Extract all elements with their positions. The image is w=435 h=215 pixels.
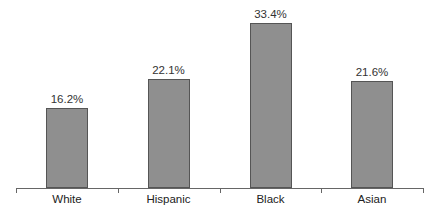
value-label: 22.1% (139, 64, 199, 76)
bar-hispanic (148, 79, 190, 188)
category-label: White (27, 193, 107, 205)
x-axis-tick (220, 188, 221, 193)
value-label: 16.2% (37, 93, 97, 105)
category-label: Asian (332, 193, 412, 205)
bar-chart: 16.2%White22.1%Hispanic33.4%Black21.6%As… (0, 0, 435, 215)
value-label: 21.6% (342, 66, 402, 78)
bar-white (46, 108, 88, 188)
bar-black (250, 23, 292, 188)
bar-asian (351, 81, 393, 188)
x-axis-tick (321, 188, 322, 193)
value-label: 33.4% (241, 8, 301, 20)
x-axis-tick (16, 188, 17, 193)
x-axis-tick (118, 188, 119, 193)
category-label: Black (231, 193, 311, 205)
category-label: Hispanic (129, 193, 209, 205)
x-axis-tick (423, 188, 424, 193)
